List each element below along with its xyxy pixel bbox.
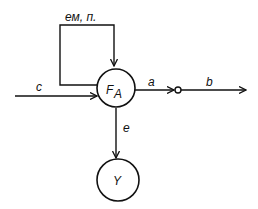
edge-label-b: b [206, 75, 213, 89]
edge-label-c: c [36, 80, 42, 94]
edge-e: e [116, 108, 130, 158]
node-fa-subscript: A [113, 87, 122, 101]
edge-label-a: a [148, 75, 155, 89]
edge-label-e: e [123, 121, 130, 135]
edge-a: a [135, 75, 174, 90]
node-y: Y [97, 159, 139, 201]
junction-point [175, 87, 181, 93]
node-fa: F A [97, 69, 135, 107]
node-fa-label: F [106, 83, 114, 97]
node-y-label: Y [113, 174, 122, 188]
diagram-canvas: ем, п. c a b e F A Y [0, 0, 258, 209]
edge-label-loop: ем, п. [65, 10, 96, 24]
edge-b: b [181, 75, 246, 90]
edge-c: c [15, 80, 97, 96]
